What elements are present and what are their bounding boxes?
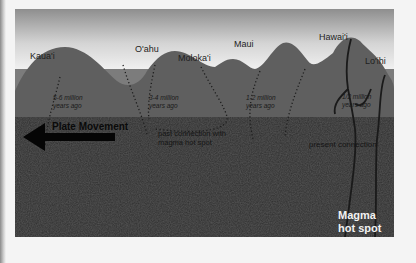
island-label-hawaii: Hawai'i bbox=[319, 32, 348, 42]
hot-spot-line-1: Magma bbox=[338, 209, 381, 222]
age-line-2: years ago bbox=[342, 101, 371, 109]
age-line-1: 3-4 million bbox=[149, 94, 179, 102]
age-label-maui: 1-2 million years ago bbox=[246, 94, 276, 110]
note-line-1: past connection with bbox=[158, 129, 226, 138]
age-label-kauai: 5-6 million years ago bbox=[53, 94, 83, 110]
island-label-loihi: Lo'ihi bbox=[365, 56, 386, 66]
note-line-2: magma hot spot bbox=[158, 138, 226, 147]
age-line-1: 1-2 million bbox=[246, 94, 276, 102]
island-label-maui: Maui bbox=[234, 39, 254, 49]
age-line-1: 1/2 million bbox=[342, 93, 371, 101]
past-connection-label: past connection with magma hot spot bbox=[158, 129, 226, 147]
island-label-molokai: Moloka'i bbox=[178, 53, 211, 63]
age-label-hawaii: 1/2 million years ago bbox=[342, 93, 371, 109]
age-line-2: years ago bbox=[53, 102, 83, 110]
island-label-kauai: Kaua'i bbox=[30, 51, 55, 61]
age-line-1: 5-6 million bbox=[53, 94, 83, 102]
age-label-oahu: 3-4 million years ago bbox=[149, 94, 179, 110]
hot-spot-line-2: hot spot bbox=[338, 222, 381, 235]
age-line-2: years ago bbox=[149, 102, 179, 110]
magma-hot-spot-label: Magma hot spot bbox=[338, 209, 381, 235]
island-label-oahu: O'ahu bbox=[135, 44, 159, 54]
present-connection-label: present connection bbox=[309, 140, 377, 149]
age-line-2: years ago bbox=[246, 102, 276, 110]
hawaii-hotspot-diagram: Kaua'i O'ahu Moloka'i Maui Hawai'i Lo'ih… bbox=[15, 9, 394, 237]
page-edge-shadow bbox=[0, 0, 6, 263]
plate-movement-label: Plate Movement bbox=[52, 121, 128, 132]
